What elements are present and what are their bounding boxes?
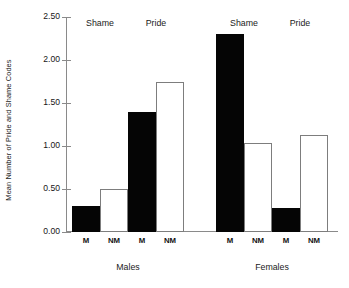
y-axis-tick-label: 0.50 [43, 183, 60, 193]
y-axis-line [66, 17, 67, 232]
bar [244, 143, 272, 232]
x-axis-tick-label: M [216, 236, 244, 245]
y-axis-tick-mark [62, 17, 71, 18]
x-axis-tick-label: M [128, 236, 156, 245]
x-axis-tick-label: NM [300, 236, 328, 245]
bar [100, 189, 128, 232]
y-axis-tick-label: 2.50 [43, 11, 60, 21]
x-axis-tick-label: NM [156, 236, 184, 245]
group-label: Females [216, 262, 328, 272]
y-axis-tick-mark [62, 146, 71, 147]
x-axis-tick-label: M [72, 236, 100, 245]
x-axis-tick-label: NM [100, 236, 128, 245]
group-label: Males [72, 262, 184, 272]
y-axis-tick-mark [62, 232, 71, 233]
y-axis-label: Mean Number of Pride and Shame Codes [2, 15, 16, 245]
bar-chart-figure: Mean Number of Pride and Shame Codes 0.0… [0, 0, 349, 288]
condition-header-label: Shame [216, 18, 272, 28]
y-axis-tick-label: 2.00 [43, 54, 60, 64]
y-axis-tick-label: 1.00 [43, 140, 60, 150]
y-axis-tick-label: 1.50 [43, 97, 60, 107]
y-axis-tick-mark [62, 60, 71, 61]
y-axis-tick-label: 0.00 [43, 226, 60, 236]
bar [300, 135, 328, 232]
bar [156, 82, 184, 233]
y-axis-tick-mark [62, 103, 71, 104]
bar [72, 206, 100, 232]
x-axis-tick-label: M [272, 236, 300, 245]
condition-header-label: Pride [272, 18, 328, 28]
bar [272, 208, 300, 232]
condition-header-label: Shame [72, 18, 128, 28]
x-axis-tick-label: NM [244, 236, 272, 245]
bar [128, 112, 156, 232]
bar [216, 34, 244, 232]
plot-area: 0.000.501.001.502.002.50 MNMMNMMNMMNM Sh… [66, 17, 338, 232]
condition-header-label: Pride [128, 18, 184, 28]
y-axis-tick-mark [62, 189, 71, 190]
